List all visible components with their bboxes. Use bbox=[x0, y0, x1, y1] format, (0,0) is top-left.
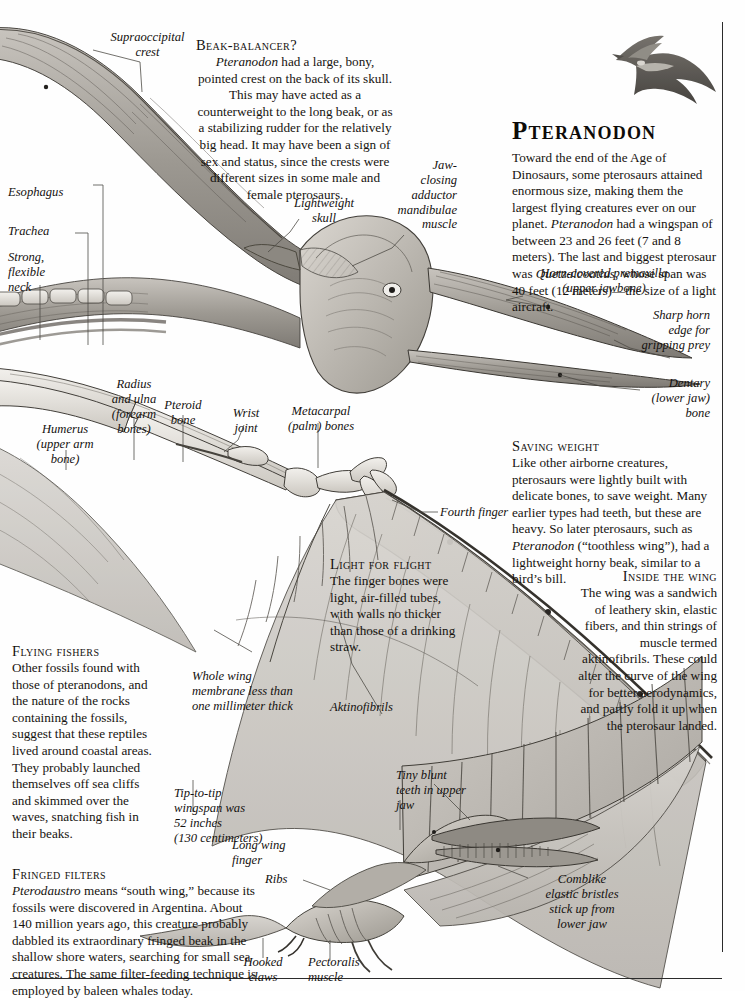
label-ribs: Ribs bbox=[265, 872, 287, 887]
label-fourth-finger: Fourth finger bbox=[440, 505, 508, 520]
section-fringed-filters: Fringed filters Pterodaustro means “sout… bbox=[12, 866, 264, 999]
section-heading-inside-the-wing: Inside the wing bbox=[575, 568, 717, 584]
label-jaw-closing-adductor-muscle: Jaw- closing adductor mandibulae muscle bbox=[385, 158, 457, 232]
column-rule bbox=[722, 22, 723, 952]
label-metacarpal-bones: Metacarpal (palm) bones bbox=[276, 404, 366, 434]
label-comblike-elastic-bristles: Comblike elastic bristles stick up from … bbox=[528, 872, 636, 931]
label-trachea: Trachea bbox=[8, 224, 49, 239]
section-body-beak-balancer: Pteranodon had a large, bony, pointed cr… bbox=[196, 54, 394, 203]
label-tip-to-tip-wingspan: Tip-to-tip wingspan was 52 inches (130 c… bbox=[174, 786, 262, 845]
label-hooked-claws: Hooked claws bbox=[228, 955, 298, 985]
label-humerus: Humerus (upper arm bone) bbox=[20, 422, 110, 467]
section-heading-saving-weight: Saving weight bbox=[512, 438, 717, 454]
section-light-for-flight: Light for flight The finger bones were l… bbox=[330, 556, 465, 656]
section-heading-light-for-flight: Light for flight bbox=[330, 556, 465, 572]
label-strong-flexible-neck: Strong, flexible neck bbox=[8, 250, 45, 295]
label-pectoralis-muscle: Pectoralis muscle bbox=[308, 955, 360, 985]
label-long-wing-finger: Long wing finger bbox=[232, 838, 286, 868]
label-wrist-joint: Wrist joint bbox=[222, 406, 270, 436]
section-body-light-for-flight: The finger bones were light, air-filled … bbox=[330, 573, 465, 656]
label-whole-wing-membrane: Whole wing membrane less than one millim… bbox=[192, 669, 293, 714]
label-supraoccipital-crest: Supraoccipital crest bbox=[95, 30, 200, 60]
label-dentary-bone: Dentary (lower jaw) bone bbox=[615, 376, 710, 421]
label-esophagus: Esophagus bbox=[8, 185, 63, 200]
section-beak-balancer: Beak-balancer? Pteranodon had a large, b… bbox=[196, 37, 394, 203]
section-body-inside-the-wing: The wing was a sandwich of leathery skin… bbox=[575, 585, 717, 734]
section-heading-fringed-filters: Fringed filters bbox=[12, 866, 264, 882]
section-body-flying-fishers: Other fossils found with those of pteran… bbox=[12, 660, 152, 842]
section-heading-beak-balancer: Beak-balancer? bbox=[196, 37, 394, 53]
label-lightweight-skull: Lightweight skull bbox=[283, 196, 365, 226]
label-horn-covered-premaxilla: Horn-covered premaxilla (upper jawbone) bbox=[524, 266, 684, 296]
section-heading-flying-fishers: Flying fishers bbox=[12, 643, 152, 659]
section-saving-weight: Saving weight Like other airborne creatu… bbox=[512, 438, 717, 588]
label-aktinofibrils: Aktinofibrils bbox=[330, 700, 393, 715]
section-body-fringed-filters: Pterodaustro means “south wing,” because… bbox=[12, 883, 264, 999]
label-pteroid-bone: Pteroid bone bbox=[154, 398, 212, 428]
section-flying-fishers: Flying fishers Other fossils found with … bbox=[12, 643, 152, 842]
section-inside-the-wing: Inside the wing The wing was a sandwich … bbox=[575, 568, 717, 734]
label-tiny-blunt-teeth: Tiny blunt teeth in upper jaw bbox=[396, 768, 466, 813]
label-sharp-horn-edge: Sharp horn edge for gripping prey bbox=[595, 308, 710, 353]
page-title: Pteranodon bbox=[512, 118, 717, 143]
